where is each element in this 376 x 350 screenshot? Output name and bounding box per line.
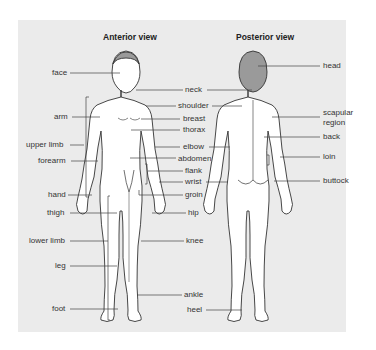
label-knee: knee [186,236,203,246]
label-thorax: thorax [183,125,205,135]
label-buttock: buttock [323,176,349,186]
label-lower-limb: lower limb [29,236,65,246]
label-neck: neck [185,85,202,95]
label-groin: groin [185,190,203,200]
label-region: region [323,118,345,128]
anterior-body-figure [77,51,166,322]
label-ankle: ankle [184,290,203,300]
label-scapular: scapular [323,108,353,118]
label-head: head [323,61,341,71]
label-arm: arm [54,112,68,122]
posterior-body-figure [204,51,293,322]
label-foot: foot [52,304,65,314]
label-flank: flank [185,166,202,176]
label-hip: hip [188,208,199,218]
label-upper-limb: upper limb [26,140,63,150]
label-leg: leg [55,261,66,271]
label-shoulder: shoulder [178,101,209,111]
label-heel: heel [187,305,202,315]
label-loin: loin [323,152,335,162]
label-elbow: elbow [183,142,204,152]
label-abdomen: abdomen [178,154,211,164]
label-back: back [323,132,340,142]
label-wrist: wrist [185,177,201,187]
label-breast: breast [183,114,205,124]
label-hand: hand [48,190,66,200]
label-face: face [52,68,67,78]
label-thigh: thigh [47,208,64,218]
label-forearm: forearm [38,156,66,166]
